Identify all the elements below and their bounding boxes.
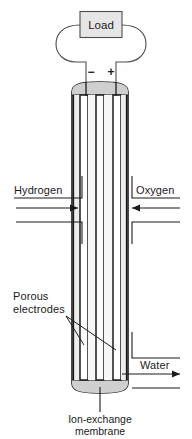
cell-top-cap-shade	[72, 82, 128, 95]
negative-terminal-sign: −	[87, 65, 94, 79]
membrane-annotation: Ion-exchange membrane	[68, 387, 132, 437]
load-resistor[interactable]: Load	[80, 12, 122, 38]
load-label: Load	[88, 19, 114, 31]
water-outlet-group: Water	[122, 332, 180, 388]
positive-terminal-sign: +	[107, 65, 114, 79]
membrane-caption-line1: Ion-exchange	[68, 413, 132, 425]
water-arrow-head	[172, 371, 180, 378]
water-label: Water	[140, 359, 170, 371]
fuel-cell-diagram: Load − +	[0, 0, 192, 439]
diagram-canvas: Load − +	[0, 0, 192, 439]
anode-electrolyte-gap	[88, 95, 96, 380]
porous-electrodes-label-line2: electrodes	[13, 303, 65, 315]
cathode-electrolyte-gap	[104, 95, 113, 380]
oxygen-channel-line	[132, 222, 180, 244]
oxygen-label: Oxygen	[136, 184, 175, 196]
porous-electrodes-label-line1: Porous	[13, 290, 49, 302]
oxygen-inlet-group: Oxygen	[132, 176, 180, 244]
oxygen-chamber	[121, 95, 127, 380]
membrane-caption-line2: membrane	[75, 425, 125, 437]
oxygen-arrow-head	[132, 205, 140, 212]
fuel-cell-body	[72, 82, 128, 393]
water-leader-line	[132, 332, 180, 358]
anode-porous-electrode	[80, 95, 88, 380]
cathode-porous-electrode	[113, 95, 121, 380]
hydrogen-label: Hydrogen	[14, 184, 63, 196]
